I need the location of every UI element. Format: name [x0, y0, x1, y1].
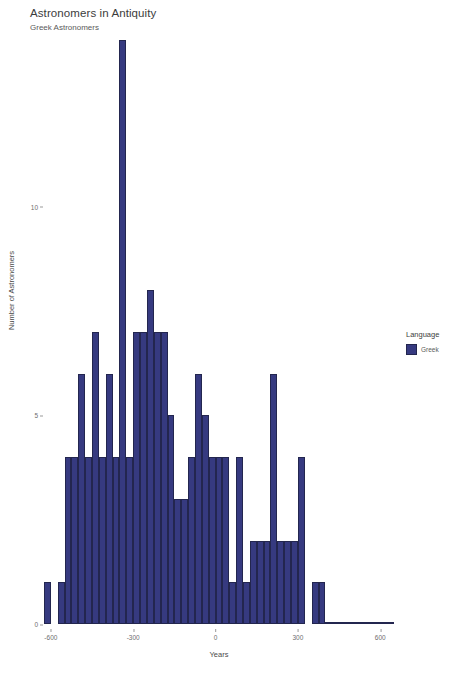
- bar: [236, 457, 243, 624]
- bar: [44, 582, 51, 624]
- bar: [106, 374, 113, 624]
- bar: [78, 374, 85, 624]
- bar: [65, 457, 72, 624]
- title-block: Astronomers in Antiquity Greek Astronome…: [30, 6, 156, 34]
- bar: [85, 457, 92, 624]
- legend-item-label: Greek: [421, 346, 439, 353]
- bar: [140, 332, 147, 624]
- y-axis: Number of Astronomers 0510: [0, 0, 44, 683]
- legend-title: Language: [406, 330, 466, 339]
- bar: [229, 582, 236, 624]
- bar: [195, 374, 202, 624]
- bar: [312, 582, 319, 624]
- bar: [181, 499, 188, 624]
- legend-entries: Greek: [406, 344, 466, 355]
- x-axis-label: Years: [44, 650, 394, 659]
- y-tick-label: 5: [34, 412, 38, 419]
- bar: [284, 541, 291, 624]
- x-tick-label: 0: [214, 634, 218, 641]
- legend: Language Greek: [406, 330, 466, 355]
- bar: [202, 415, 209, 624]
- bar: [174, 499, 181, 624]
- bar: [71, 457, 78, 624]
- bar: [216, 457, 223, 624]
- bar: [257, 541, 264, 624]
- bar: [319, 582, 326, 624]
- x-axis: -600-3000300600 Years: [44, 624, 394, 664]
- bar: [92, 332, 99, 624]
- chart-container: Astronomers in Antiquity Greek Astronome…: [0, 0, 468, 683]
- x-tick-label: 300: [292, 634, 303, 641]
- legend-item[interactable]: Greek: [406, 344, 466, 355]
- bar: [161, 332, 168, 624]
- y-tick-label: 0: [34, 621, 38, 628]
- x-tick-label: -600: [44, 634, 57, 641]
- bar: [264, 541, 271, 624]
- bar: [154, 332, 161, 624]
- bar: [270, 374, 277, 624]
- bar: [209, 457, 216, 624]
- plot-area: [44, 40, 394, 624]
- bar: [133, 332, 140, 624]
- y-axis-label: Number of Astronomers: [7, 236, 16, 346]
- bar: [126, 457, 133, 624]
- legend-swatch-icon: [406, 344, 417, 355]
- bar: [291, 541, 298, 624]
- bar: [168, 415, 175, 624]
- bar: [113, 457, 120, 624]
- x-tick-label: -300: [127, 634, 140, 641]
- bar-series-greek: [44, 40, 394, 624]
- bar: [147, 290, 154, 624]
- page-title: Astronomers in Antiquity: [30, 6, 156, 20]
- bar: [119, 40, 126, 624]
- bar: [250, 541, 257, 624]
- bar: [58, 582, 65, 624]
- bar: [99, 457, 106, 624]
- bar: [243, 582, 250, 624]
- x-tick-label: 600: [375, 634, 386, 641]
- chart-subtitle: Greek Astronomers: [30, 22, 156, 34]
- bar: [277, 541, 284, 624]
- bar: [222, 457, 229, 624]
- bar: [188, 457, 195, 624]
- y-tick-label: 10: [31, 203, 38, 210]
- bar: [298, 457, 305, 624]
